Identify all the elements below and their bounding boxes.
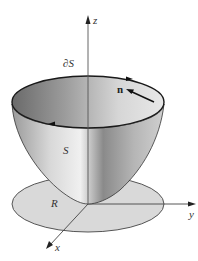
boundary-label: ∂S: [63, 57, 74, 69]
surface-diagram: z y x ∂S n S R: [0, 0, 198, 261]
y-axis-arrow-icon: [188, 202, 196, 207]
z-axis-label: z: [92, 14, 98, 26]
z-axis-arrow-icon: [86, 15, 91, 24]
y-axis-label: y: [188, 208, 194, 220]
surface-label: S: [63, 144, 69, 156]
x-axis-arrow-icon: [46, 241, 53, 249]
x-axis-label: x: [54, 241, 60, 253]
normal-label: n: [117, 83, 123, 95]
region-label: R: [50, 197, 58, 209]
